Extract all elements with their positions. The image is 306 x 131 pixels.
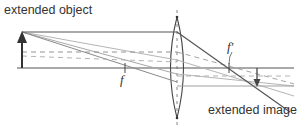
primary-ray-refracted [177,32,290,112]
object-label: extended object [4,4,92,17]
lens-bottom-tip [176,117,179,120]
lens-top-tip [176,16,179,19]
focal-back-label: f′ [227,40,233,53]
secondary-ray-1 [22,32,177,60]
focal-front-label: f [120,73,124,86]
secondary-ray-1-after [177,60,294,96]
focal-ray-front [22,32,177,82]
image-label: extended image [208,104,297,117]
